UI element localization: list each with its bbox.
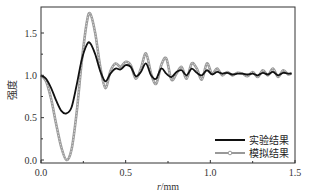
y-axis-title: 强度 bbox=[6, 80, 18, 100]
line-chart: 0.00.51.01.50.00.51.01.5 r/mm 强度 实验结果 模拟… bbox=[0, 0, 310, 195]
y-tick-label: 1.0 bbox=[25, 70, 38, 81]
x-tick-label: 1.0 bbox=[204, 167, 217, 178]
y-tick-label: 1.5 bbox=[25, 28, 38, 39]
legend-label-simulated: 模拟结果 bbox=[249, 147, 289, 159]
legend-marker-simulated bbox=[228, 151, 232, 155]
x-tick-label: 0.0 bbox=[35, 167, 48, 178]
legend-label-experimental: 实验结果 bbox=[249, 134, 289, 146]
x-tick-label: 1.5 bbox=[289, 167, 302, 178]
legend: 实验结果 模拟结果 bbox=[215, 134, 289, 159]
y-tick-label: 0.5 bbox=[25, 112, 38, 123]
y-tick-label: 0.0 bbox=[25, 155, 38, 166]
x-axis-title: r/mm bbox=[157, 181, 179, 192]
x-tick-label: 0.5 bbox=[119, 167, 132, 178]
